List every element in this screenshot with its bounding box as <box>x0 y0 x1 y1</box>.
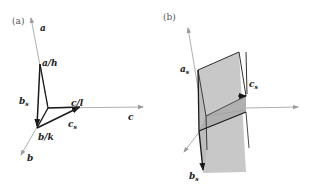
label-b-s: bs <box>189 171 199 182</box>
plane-right-edge-lower <box>246 112 249 148</box>
panel-a: (a) a a/h bs c/l c cs b/k b <box>12 16 143 163</box>
label-b-over-k: b/k <box>38 132 54 142</box>
axis-c-label: c <box>128 112 134 122</box>
axis-c <box>246 107 298 108</box>
axis-a-label: a <box>40 23 46 33</box>
diagram-canvas: (a) a a/h bs c/l c cs b/k b (b) <box>0 0 313 189</box>
label-c-s: cs <box>249 79 258 90</box>
c-s-guide <box>246 52 247 94</box>
panel-a-label: (a) <box>12 16 24 26</box>
panel-b-label: (b) <box>163 12 176 22</box>
label-a-over-h: a/h <box>42 58 58 68</box>
edge-origin-to-a-over-h <box>40 64 48 108</box>
axis-b-label: b <box>27 153 33 163</box>
axis-b <box>184 131 200 152</box>
vector-b-s <box>37 64 40 126</box>
label-a-s: as <box>180 64 190 75</box>
panel-b: (b) as cs bs <box>163 12 298 182</box>
label-c-over-l: c/l <box>71 98 84 108</box>
label-b-s: bs <box>19 96 29 107</box>
label-c-s: cs <box>68 119 77 130</box>
